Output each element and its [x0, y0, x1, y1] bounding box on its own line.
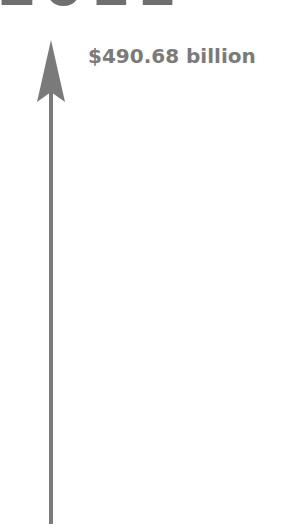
value-arrow-icon: [0, 0, 300, 525]
value-label: $490.68 billion: [88, 46, 256, 66]
